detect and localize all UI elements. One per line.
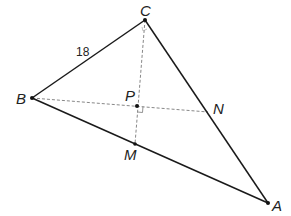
label-M: M bbox=[124, 146, 137, 163]
label-C: C bbox=[140, 2, 151, 19]
label-B: B bbox=[16, 90, 26, 107]
segment-CM bbox=[135, 20, 145, 144]
point-A bbox=[266, 201, 270, 205]
point-P bbox=[135, 104, 139, 108]
label-N: N bbox=[213, 100, 224, 117]
triangle-diagram: C B A P N M 18 bbox=[0, 0, 291, 216]
label-P: P bbox=[125, 87, 135, 104]
side-length-BC: 18 bbox=[76, 45, 90, 59]
point-B bbox=[30, 96, 34, 100]
label-A: A bbox=[271, 197, 282, 214]
